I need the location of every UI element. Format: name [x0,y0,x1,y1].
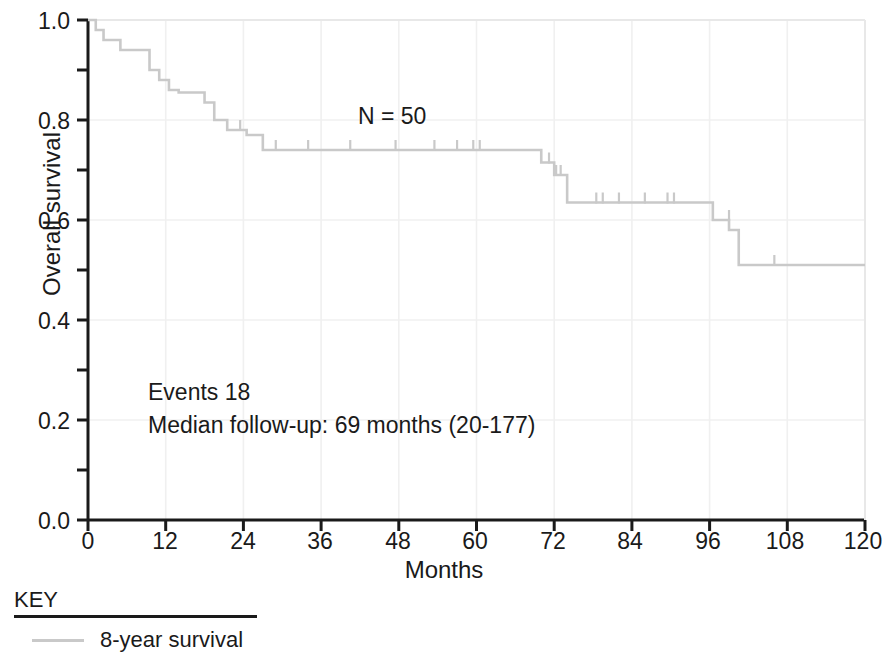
x-tick-label-24: 24 [208,528,278,555]
key-line-swatch [32,639,84,642]
x-tick-label-0: 0 [53,528,123,555]
x-tick-label-36: 36 [285,528,355,555]
key-entry-label: 8-year survival [100,627,243,653]
x-tick-label-60: 60 [440,528,510,555]
x-tick-label-84: 84 [595,528,665,555]
x-tick-label-96: 96 [673,528,743,555]
survival-chart-figure: 1.0 0.8 0.6 0.4 0.2 0.0 0 12 24 36 48 60… [0,0,888,653]
x-tick-label-120: 120 [828,528,888,555]
key-divider [14,615,257,618]
key-entry-8-year-survival: 8-year survival [14,627,434,653]
x-axis-title: Months [0,556,888,584]
y-tick-label-0-2: 0.2 [0,408,70,435]
events-annotation: Events 18 [148,379,250,406]
chart-key: KEY 8-year survival [14,588,434,653]
key-title: KEY [14,588,434,611]
y-axis-title: Overall survival [38,84,66,344]
x-tick-label-48: 48 [363,528,433,555]
x-tick-label-72: 72 [518,528,588,555]
n-annotation: N = 50 [358,103,426,130]
x-tick-label-12: 12 [130,528,200,555]
axis-ticks-group [77,20,865,531]
x-tick-label-108: 108 [750,528,820,555]
median-followup-annotation: Median follow-up: 69 months (20-177) [148,412,535,439]
censor-marks-group [240,120,774,266]
y-tick-label-1-0: 1.0 [0,8,70,35]
